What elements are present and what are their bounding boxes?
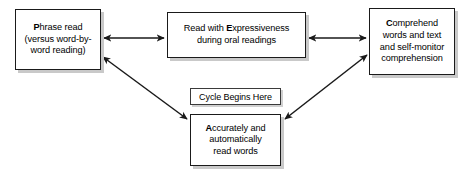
node-accurately-read-words-label: Accurately and automatically read words (203, 123, 269, 158)
node-phrase-read-label: Phrase read (versus word-by- word readin… (22, 22, 95, 57)
node-read-with-expressiveness-label: Read with Expressiveness during oral rea… (181, 23, 292, 46)
node-phrase-read: Phrase read (versus word-by- word readin… (15, 9, 101, 70)
connector-accurately-comprehend (285, 55, 367, 119)
node-comprehend-words: Comprehend words and text and self-monit… (369, 8, 455, 75)
fluency-cycle-diagram: Read with Expressiveness --> Comprehend … (0, 0, 468, 179)
node-comprehend-words-label: Comprehend words and text and self-monit… (377, 18, 447, 64)
node-accurately-read-words: Accurately and automatically read words (190, 114, 281, 166)
cycle-begins-here-callout: Cycle Begins Here (190, 88, 281, 105)
cycle-begins-here-label: Cycle Begins Here (196, 92, 275, 102)
node-read-with-expressiveness: Read with Expressiveness during oral rea… (167, 12, 306, 58)
node-read-with-expressiveness-pre: Read with (184, 23, 226, 33)
node-accurately-read-words-rest: ccurately and automatically read words (209, 123, 265, 156)
connector-accurately-phrase (103, 57, 187, 119)
